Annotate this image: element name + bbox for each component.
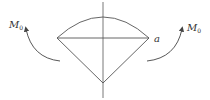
- left-side: [57, 38, 103, 83]
- moment-label-left-sub: 0: [19, 24, 23, 31]
- point-a-label: a: [154, 33, 160, 44]
- moment-label-left-main: M: [8, 19, 20, 30]
- moment-label-right-main: M: [186, 22, 198, 33]
- mechanics-diagram: M0 M0 a: [0, 0, 210, 100]
- moment-label-right: M0: [186, 22, 201, 34]
- right-moment-arrow: [147, 29, 182, 61]
- moment-label-right-sub: 0: [197, 27, 201, 34]
- moment-label-left: M0: [8, 19, 23, 31]
- left-moment-arrow: [26, 29, 60, 61]
- right-side: [103, 38, 149, 83]
